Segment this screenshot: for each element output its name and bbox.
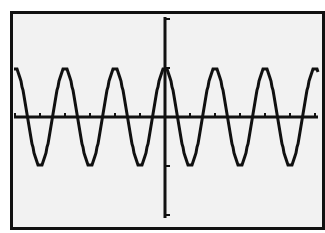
graph-plot (0, 0, 325, 233)
